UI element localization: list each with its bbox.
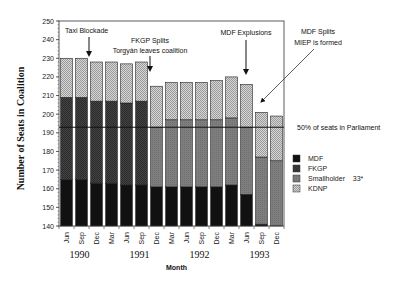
y-tick-label: 240 (42, 36, 54, 43)
bar-segment-mdf (166, 187, 178, 226)
year-label: 1990 (70, 249, 90, 260)
legend-label: Smallholder 33* (308, 175, 364, 182)
x-tick-label: Jun (63, 232, 70, 243)
bar-segment-kdnp (151, 86, 163, 127)
bar-dec (211, 81, 223, 226)
bar-jun (241, 84, 253, 226)
bar-segment-mdf (91, 183, 103, 226)
bar-segment-kdnp (61, 58, 73, 97)
bar-sep (196, 83, 208, 227)
legend-swatch (293, 155, 300, 162)
y-tick-label: 230 (42, 55, 54, 62)
x-tick-label: Jun (123, 232, 130, 243)
y-tick-label: 160 (42, 185, 54, 192)
bar-segment-fkgp (61, 97, 73, 179)
x-tick-label: Jun (243, 232, 250, 243)
year-label: 1993 (250, 249, 270, 260)
bar-segment-fkgp (136, 101, 148, 185)
bar-sep (256, 112, 268, 226)
bar-segment-smallholder (181, 120, 193, 187)
y-tick-label: 170 (42, 167, 54, 174)
y-tick-label: 220 (42, 73, 54, 80)
y-tick-label: 150 (42, 204, 54, 211)
x-tick-label: Jun (183, 232, 190, 243)
bar-sep (76, 58, 88, 226)
bar-segment-kdnp (106, 62, 118, 101)
bar-segment-smallholder (271, 161, 283, 226)
bar-segment-fkgp (121, 103, 133, 185)
x-tick-label: Dec (93, 232, 100, 245)
bar-mar (226, 77, 238, 226)
bar-dec (151, 86, 163, 226)
majority-line-label: 50% of seats in Parliament (297, 124, 380, 131)
bar-segment-mdf (196, 187, 208, 226)
bar-segment-mdf (241, 194, 253, 226)
bar-segment-smallholder (196, 120, 208, 187)
y-tick-label: 200 (42, 111, 54, 118)
year-label: 1992 (190, 249, 210, 260)
y-tick-label: 190 (42, 129, 54, 136)
bar-segment-kdnp (76, 58, 88, 97)
bar-segment-smallholder (211, 120, 223, 187)
x-tick-label: Sep (78, 232, 86, 245)
annotation-mdf-splits: MDF Splits (301, 28, 336, 36)
bar-segment-mdf (211, 187, 223, 226)
y-tick-label: 210 (42, 92, 54, 99)
bar-segment-mdf (136, 185, 148, 226)
bar-segment-smallholder (151, 127, 163, 187)
legend-swatch (293, 185, 300, 192)
legend: MDFFKGPSmallholder 33*KDNP (293, 155, 364, 192)
bar-segment-mdf (151, 187, 163, 226)
y-axis-title: Number of Seats in Coalition (15, 66, 26, 190)
x-axis-title: Month (166, 264, 187, 271)
bar-dec (271, 116, 283, 226)
bar-segment-fkgp (106, 101, 118, 183)
legend-item-fkgp: FKGP (293, 165, 327, 172)
x-tick-label: Sep (138, 232, 146, 245)
bar-mar (106, 62, 118, 226)
bar-segment-mdf (226, 185, 238, 226)
bar-segment-fkgp (91, 101, 103, 183)
bar-segment-kdnp (211, 81, 223, 120)
y-tick-label: 180 (42, 148, 54, 155)
bar-jun (181, 83, 193, 227)
bar-segment-smallholder (166, 120, 178, 187)
bar-segment-kdnp (121, 64, 133, 103)
bar-segment-mdf (121, 185, 133, 226)
legend-swatch (293, 165, 300, 172)
legend-item-mdf: MDF (293, 155, 323, 162)
bar-segment-mdf (106, 183, 118, 226)
bar-segment-kdnp (271, 116, 283, 161)
annotation-fkgp-splits: FKGP Splits (131, 37, 169, 45)
annotation-mdf-explusions: MDF Explusions (221, 29, 272, 37)
bar-dec (91, 62, 103, 226)
legend-item-smallholder: Smallholder 33* (293, 175, 364, 182)
bar-segment-kdnp (136, 62, 148, 101)
x-tick-label: Mar (168, 231, 175, 244)
legend-label: MDF (308, 155, 323, 162)
bar-segment-smallholder (241, 127, 253, 194)
bar-jun (121, 64, 133, 226)
bar-segment-mdf (61, 179, 73, 226)
bar-segment-fkgp (76, 97, 88, 179)
plot-area (59, 58, 284, 226)
annotation-miep-formed: MIEP is formed (294, 39, 342, 46)
bar-segment-kdnp (91, 62, 103, 101)
y-tick-label: 140 (42, 223, 54, 230)
y-tick-label: 250 (42, 18, 54, 25)
x-tick-label: Dec (273, 232, 280, 245)
x-tick-label: Mar (228, 231, 235, 244)
x-tick-label: Mar (108, 231, 115, 244)
stacked-bar-chart: 140150160170180190200210220230240250JunS… (0, 0, 398, 283)
bar-segment-kdnp (241, 84, 253, 127)
bar-segment-kdnp (181, 83, 193, 120)
bar-mar (166, 83, 178, 227)
annotation-torgyan: Torgyán leaves coalition (113, 47, 188, 55)
x-tick-label: Dec (153, 232, 160, 245)
x-tick-label: Sep (258, 232, 266, 245)
bar-segment-kdnp (226, 77, 238, 118)
legend-swatch (293, 175, 300, 182)
year-label: 1991 (130, 249, 150, 260)
annotation-taxi-blockade: Taxi Blockade (65, 27, 108, 34)
bar-segment-kdnp (166, 83, 178, 120)
